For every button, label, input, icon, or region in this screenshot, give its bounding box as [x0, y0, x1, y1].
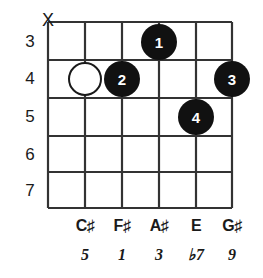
finger-dot-2: 2	[104, 61, 140, 97]
note-name-string-3: A♯	[139, 218, 179, 234]
note-name-string-4: F♯	[102, 218, 142, 234]
interval-string-4: 1	[102, 247, 142, 263]
mute-marker-string-6: X	[38, 11, 58, 29]
finger-dot-4: 4	[178, 99, 214, 135]
note-name-string-2: E	[176, 218, 216, 234]
note-name-string-1: G♯	[212, 218, 252, 234]
fret-number-6: 6	[19, 146, 41, 163]
fret-number-5: 5	[19, 108, 41, 125]
interval-string-5: 5	[65, 247, 105, 263]
interval-string-2: ♭7	[176, 247, 216, 263]
interval-string-3: 3	[139, 247, 179, 263]
interval-string-1: 9	[212, 247, 252, 263]
open-marker-string-5-fret-4	[68, 62, 102, 96]
fret-number-3: 3	[19, 33, 41, 50]
fret-number-7: 7	[19, 182, 41, 199]
finger-dot-1: 1	[141, 24, 177, 60]
fret-number-4: 4	[19, 70, 41, 87]
chord-diagram: X 3 4 5 6 7 1 2 3 4 C♯ F♯ A♯ E G♯ 5 1 3 …	[0, 0, 263, 278]
finger-dot-3: 3	[214, 61, 250, 97]
note-name-string-5: C♯	[65, 218, 105, 234]
